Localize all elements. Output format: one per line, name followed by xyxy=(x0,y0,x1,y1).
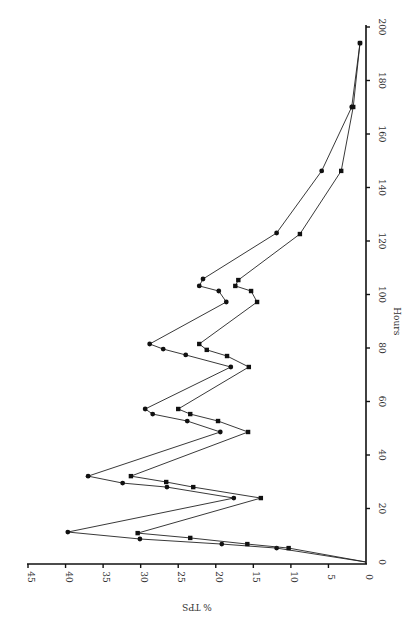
data-point-square xyxy=(286,546,290,550)
tps-tick-label: 20 xyxy=(214,571,224,583)
hours-tick-label: 20 xyxy=(377,503,387,515)
hours-tick-label: 160 xyxy=(377,125,387,142)
hours-tick-label: 180 xyxy=(377,72,387,89)
data-point-circle xyxy=(231,496,236,501)
plot-area xyxy=(65,41,366,562)
hours-axis-title: Hours xyxy=(392,307,402,335)
data-point-square xyxy=(246,430,250,434)
data-point-circle xyxy=(219,542,224,547)
data-point-square xyxy=(205,348,209,352)
data-point-square xyxy=(216,419,220,423)
data-point-square xyxy=(197,342,201,346)
data-point-square xyxy=(247,365,251,369)
hours-tick-label: 80 xyxy=(377,342,387,354)
data-point-square xyxy=(245,542,249,546)
data-point-circle xyxy=(201,277,206,282)
data-point-circle xyxy=(120,481,125,486)
data-point-circle xyxy=(197,284,202,289)
rotated-line-chart: 0204060801001201401601802000510152025303… xyxy=(0,0,407,632)
data-point-circle xyxy=(86,474,91,479)
data-point-square xyxy=(358,41,362,45)
axes xyxy=(27,25,370,568)
hours-tick-label: 120 xyxy=(377,232,387,249)
tps-tick-label: 40 xyxy=(64,571,74,583)
data-point-circle xyxy=(143,407,148,412)
data-point-square xyxy=(236,278,240,282)
data-point-circle xyxy=(216,289,221,294)
tps-tick-label: 15 xyxy=(251,571,261,583)
data-point-circle xyxy=(228,365,233,370)
tps-tick-label: 45 xyxy=(26,571,36,583)
hours-tick-label: 0 xyxy=(377,559,387,565)
hours-tick-label: 140 xyxy=(377,179,387,196)
tps-tick-label: 0 xyxy=(364,574,374,580)
data-point-square xyxy=(191,485,195,489)
tps-tick-label: 25 xyxy=(176,571,186,583)
data-point-circle xyxy=(65,530,70,535)
tps-axis-title: % TPS xyxy=(182,602,212,612)
hours-tick-label: 100 xyxy=(377,286,387,303)
data-point-square xyxy=(259,496,263,500)
hours-tick-label: 60 xyxy=(377,396,387,408)
data-point-circle xyxy=(319,169,324,174)
data-point-square xyxy=(129,474,133,478)
data-point-square xyxy=(339,169,343,173)
series-line-a xyxy=(68,43,366,562)
data-point-circle xyxy=(161,347,166,352)
hours-tick-label: 200 xyxy=(377,18,387,35)
axis-labels: 0204060801001201401601802000510152025303… xyxy=(26,18,402,612)
tps-tick-label: 35 xyxy=(101,571,111,583)
data-point-circle xyxy=(183,353,188,358)
data-point-circle xyxy=(138,537,143,542)
hours-tick-label: 40 xyxy=(377,449,387,461)
tps-tick-label: 10 xyxy=(289,571,299,583)
data-point-circle xyxy=(165,485,170,490)
data-point-circle xyxy=(274,231,279,236)
data-point-square xyxy=(255,300,259,304)
data-point-square xyxy=(188,536,192,540)
data-point-circle xyxy=(150,412,155,417)
tps-tick-label: 30 xyxy=(139,571,149,583)
data-point-circle xyxy=(185,419,190,424)
data-point-square xyxy=(233,284,237,288)
data-point-circle xyxy=(147,342,152,347)
data-point-square xyxy=(225,354,229,358)
tps-tick-label: 5 xyxy=(326,574,336,580)
data-point-square xyxy=(351,105,355,109)
data-point-circle xyxy=(218,430,223,435)
data-point-square xyxy=(188,412,192,416)
data-point-circle xyxy=(224,300,229,305)
data-point-square xyxy=(176,407,180,411)
data-point-square xyxy=(249,289,253,293)
data-point-square xyxy=(164,480,168,484)
data-point-square xyxy=(135,531,139,535)
data-point-square xyxy=(298,232,302,236)
